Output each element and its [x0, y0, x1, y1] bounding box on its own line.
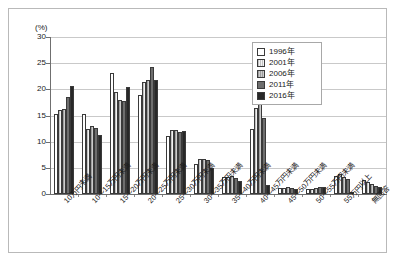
y-tick-mark: [46, 142, 50, 143]
chart-legend: 1996年2001年2006年2011年2016年: [252, 42, 322, 105]
bar-group: [50, 37, 78, 194]
legend-label: 1996年: [269, 47, 295, 56]
chart-screenshot: (%) 051015202530 10万円未満10〜15万円未満15〜20万円未…: [0, 0, 395, 261]
y-tick-mark: [46, 116, 50, 117]
bar: [126, 87, 130, 194]
y-tick-mark: [46, 168, 50, 169]
bar: [262, 118, 266, 194]
legend-item[interactable]: 2011年: [257, 79, 317, 90]
bar-group: [78, 37, 106, 194]
legend-item[interactable]: 1996年: [257, 46, 317, 57]
legend-label: 2001年: [269, 58, 295, 67]
chart-frame: (%) 051015202530 10万円未満10〜15万円未満15〜20万円未…: [8, 8, 387, 253]
y-axis-tick-labels: 051015202530: [23, 9, 46, 209]
y-tick-mark: [46, 37, 50, 38]
legend-item[interactable]: 2006年: [257, 68, 317, 79]
legend-swatch-icon: [257, 70, 265, 78]
y-tick-label: 10: [37, 138, 46, 146]
legend-item[interactable]: 2016年: [257, 90, 317, 101]
y-tick-mark: [46, 89, 50, 90]
bar: [70, 86, 74, 194]
legend-label: 2006年: [269, 69, 295, 78]
legend-label: 2011年: [269, 80, 294, 89]
plot-area: [50, 37, 386, 194]
y-tick-label: 15: [37, 112, 46, 120]
y-tick-label: 30: [37, 33, 46, 41]
legend-label: 2016年: [269, 91, 295, 100]
y-tick-label: 25: [37, 59, 46, 67]
legend-swatch-icon: [257, 81, 265, 89]
y-tick-label: 20: [37, 85, 46, 93]
bar: [154, 80, 158, 194]
y-axis-line: [50, 37, 51, 195]
y-tick-mark: [46, 194, 50, 195]
bar-group: [358, 37, 386, 194]
legend-swatch-icon: [257, 59, 265, 67]
legend-item[interactable]: 2001年: [257, 57, 317, 68]
legend-swatch-icon: [257, 48, 265, 56]
y-tick-mark: [46, 63, 50, 64]
legend-swatch-icon: [257, 92, 265, 100]
